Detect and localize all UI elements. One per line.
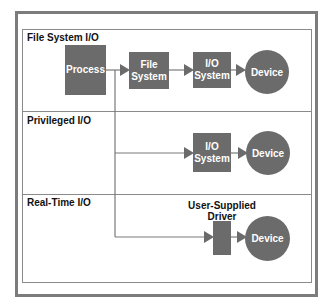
io-system-label-line2: System	[194, 70, 230, 82]
device-node: Device	[246, 131, 290, 175]
io-system-label-line1: I/O	[205, 141, 218, 153]
device-node: Device	[245, 216, 290, 261]
io-system-node: I/O System	[193, 52, 231, 88]
io-system-node: I/O System	[193, 133, 231, 172]
file-system-node: File System	[129, 52, 169, 89]
device-node: Device	[245, 50, 289, 94]
process-node: Process	[65, 45, 106, 95]
device-label: Device	[252, 148, 284, 159]
driver-label-line1: User-Supplied	[182, 200, 262, 211]
device-label: Device	[251, 233, 283, 244]
io-system-label-line1: I/O	[205, 58, 218, 70]
io-system-label-line2: System	[194, 153, 230, 165]
process-label: Process	[66, 64, 105, 76]
device-label: Device	[251, 67, 283, 78]
driver-node	[213, 221, 231, 255]
file-system-label-line1: File	[140, 59, 157, 71]
user-supplied-driver-label: User-Supplied Driver	[182, 200, 262, 222]
file-system-label-line2: System	[131, 71, 167, 83]
